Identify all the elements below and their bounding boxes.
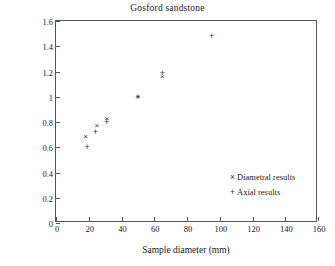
data-point-marker: + — [209, 32, 214, 41]
data-point-marker: × — [83, 133, 88, 141]
y-tick-label: 1 — [49, 93, 53, 103]
x-axis-title: Sample diameter (mm) — [55, 245, 317, 255]
x-tick-label: 140 — [280, 224, 293, 234]
x-tick-label: 160 — [313, 224, 326, 234]
x-tick-label: 20 — [86, 224, 95, 234]
y-tick-label: 0.4 — [42, 169, 53, 179]
x-tick-label: 80 — [184, 224, 193, 234]
y-tick-label: 0.6 — [42, 143, 53, 153]
legend-marker-icon: × — [228, 170, 237, 185]
x-tick-label: 40 — [118, 224, 127, 234]
data-point-marker: + — [135, 92, 140, 101]
y-tick-label: 1.6 — [42, 17, 53, 27]
y-tick-label: 0 — [49, 219, 53, 229]
x-tick-label: 0 — [55, 224, 59, 234]
y-tick-label: 1.2 — [42, 68, 53, 78]
data-point-marker: + — [104, 118, 109, 127]
y-tick-label: 0.8 — [42, 118, 53, 128]
data-point-marker: + — [160, 68, 165, 77]
data-point-marker: + — [84, 143, 89, 152]
legend-item: ×Diametral results — [228, 170, 295, 185]
legend-label: Axial results — [237, 187, 280, 197]
x-tick-label: 120 — [247, 224, 260, 234]
y-tick-label: 0.2 — [42, 194, 53, 204]
legend-label: Diametral results — [237, 172, 295, 182]
x-tick-label: 60 — [151, 224, 160, 234]
legend-marker-icon: + — [228, 185, 237, 200]
scatter-chart-figure: Gosford sandstone 00.20.40.60.811.21.41.… — [0, 0, 335, 266]
y-tick-label: 1.4 — [42, 42, 53, 52]
chart-title: Gosford sandstone — [0, 3, 335, 13]
x-tick-mark: 160 — [318, 217, 319, 221]
chart-legend: ×Diametral results+Axial results — [228, 170, 295, 200]
legend-item: +Axial results — [228, 185, 295, 200]
x-tick-label: 100 — [214, 224, 227, 234]
data-point-marker: + — [93, 128, 98, 137]
